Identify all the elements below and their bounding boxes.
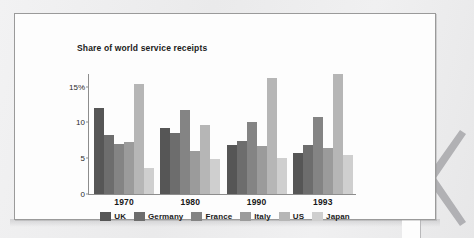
x-axis-category-label: 1993	[283, 197, 363, 207]
bar-group	[227, 76, 287, 194]
bar-group	[94, 76, 154, 194]
legend-item-germany[interactable]: Germany	[134, 212, 183, 221]
x-axis-line	[88, 194, 356, 195]
bar-france	[247, 122, 257, 194]
bar-us	[134, 84, 144, 194]
bar-uk	[94, 108, 104, 194]
legend-swatch-icon	[134, 212, 145, 221]
legend-swatch-icon	[312, 212, 323, 221]
bar-group	[160, 76, 220, 194]
bar-germany	[170, 133, 180, 194]
bar-italy	[190, 151, 200, 194]
y-axis-tick-mark	[86, 194, 89, 195]
chart-card: Share of world service receipts 051015% …	[14, 13, 436, 220]
legend-label: Japan	[326, 212, 350, 221]
legend-item-us[interactable]: US	[279, 212, 304, 221]
bar-uk	[160, 128, 170, 194]
y-axis-tick-mark	[86, 158, 89, 159]
legend-swatch-icon	[191, 212, 202, 221]
legend-label: US	[293, 212, 304, 221]
legend-item-italy[interactable]: Italy	[240, 212, 271, 221]
bar-germany	[237, 141, 247, 194]
legend-label: UK	[114, 212, 126, 221]
legend-label: Germany	[148, 212, 183, 221]
bar-uk	[227, 145, 237, 194]
bar-japan	[210, 159, 220, 194]
bar-italy	[124, 142, 134, 194]
legend-label: Italy	[254, 212, 271, 221]
legend-swatch-icon	[240, 212, 251, 221]
y-axis-tick-mark	[86, 86, 89, 87]
bar-france	[180, 110, 190, 194]
bar-japan	[343, 155, 353, 194]
bar-japan	[144, 168, 154, 194]
bar-germany	[303, 145, 313, 194]
bar-italy	[257, 146, 267, 194]
chart-legend: UKGermanyFranceItalyUSJapan	[15, 212, 435, 221]
bar-group	[293, 76, 353, 194]
bar-us	[267, 78, 277, 194]
legend-label: France	[205, 212, 232, 221]
bar-uk	[293, 153, 303, 194]
plot-area: 051015%	[89, 76, 354, 194]
bar-germany	[104, 135, 114, 194]
legend-swatch-icon	[100, 212, 111, 221]
bar-us	[333, 74, 343, 194]
bar-japan	[277, 158, 287, 194]
y-axis-tick-mark	[86, 122, 89, 123]
bar-france	[114, 144, 124, 194]
bar-france	[313, 117, 323, 194]
legend-item-japan[interactable]: Japan	[312, 212, 350, 221]
legend-item-france[interactable]: France	[191, 212, 232, 221]
bar-us	[200, 125, 210, 194]
legend-swatch-icon	[279, 212, 290, 221]
chart-title: Share of world service receipts	[77, 43, 207, 53]
legend-item-uk[interactable]: UK	[100, 212, 126, 221]
bar-italy	[323, 148, 333, 194]
